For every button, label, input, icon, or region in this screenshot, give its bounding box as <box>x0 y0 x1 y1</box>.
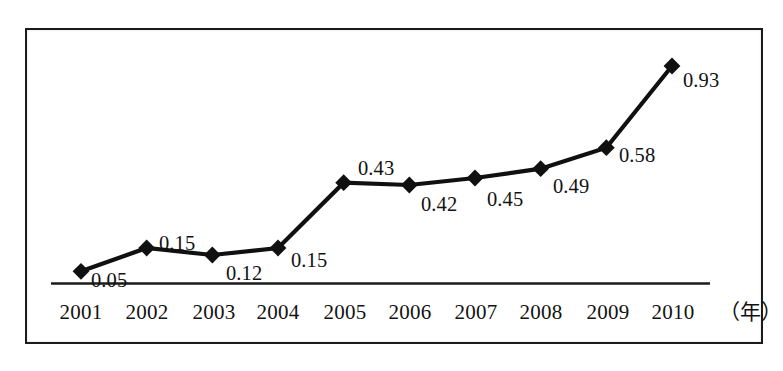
data-point-marker <box>532 160 549 177</box>
x-axis-tick-labels: 2001 2002 2003 2004 2005 2006 2007 2008 … <box>25 299 763 329</box>
data-label-2008: 0.49 <box>553 176 589 197</box>
data-label-2002: 0.15 <box>159 233 195 254</box>
data-point-marker <box>138 240 155 257</box>
x-tick-2008: 2008 <box>519 299 562 325</box>
x-tick-2005: 2005 <box>323 299 366 325</box>
data-label-2006: 0.42 <box>421 194 457 215</box>
chart-plot-area: 0.05 0.15 0.12 0.15 0.43 0.42 0.45 0.49 … <box>25 28 763 344</box>
x-tick-2009: 2009 <box>586 299 629 325</box>
x-tick-2002: 2002 <box>125 299 168 325</box>
x-tick-2010: 2010 <box>651 299 694 325</box>
x-tick-2004: 2004 <box>256 299 299 325</box>
x-tick-2003: 2003 <box>192 299 235 325</box>
x-tick-2006: 2006 <box>388 299 431 325</box>
data-label-2010: 0.93 <box>683 70 719 91</box>
x-tick-2007: 2007 <box>454 299 497 325</box>
data-label-2001: 0.05 <box>91 270 127 291</box>
data-label-2003: 0.12 <box>226 263 262 284</box>
data-label-2005: 0.43 <box>358 158 394 179</box>
data-point-marker <box>401 177 418 194</box>
data-point-marker <box>204 247 221 264</box>
data-label-2009: 0.58 <box>619 145 655 166</box>
data-label-2004: 0.15 <box>291 250 327 271</box>
data-point-marker <box>73 263 90 280</box>
data-point-marker <box>467 170 484 187</box>
x-tick-2001: 2001 <box>59 299 102 325</box>
data-label-2007: 0.45 <box>487 189 523 210</box>
clipped-caption <box>0 358 783 371</box>
x-axis-unit-label: （年） <box>719 299 782 325</box>
line-chart-svg <box>25 28 763 344</box>
